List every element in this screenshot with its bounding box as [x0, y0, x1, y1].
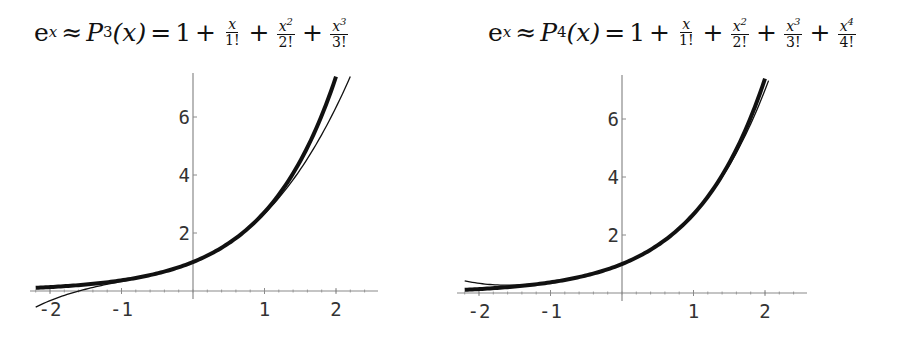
y-tick-label: 2: [608, 224, 619, 246]
x-tick-label: -1: [110, 298, 133, 320]
x-tick-label: -1: [539, 300, 562, 322]
x-tick-label: 1: [688, 300, 699, 322]
y-tick-label: 4: [179, 164, 190, 186]
x-tick-label: 1: [259, 298, 270, 320]
y-tick-label: 6: [179, 106, 190, 128]
y-tick-label: 2: [179, 222, 190, 244]
plots-canvas: -2-112246 -2-112246: [0, 0, 916, 340]
plot-p4: -2-112246: [457, 75, 807, 322]
x-tick-label: -2: [468, 300, 491, 322]
y-tick-label: 6: [608, 108, 619, 130]
x-tick-label: 2: [330, 298, 341, 320]
y-tick-label: 4: [608, 166, 619, 188]
x-tick-label: 2: [759, 300, 770, 322]
plot-p3: -2-112246: [30, 73, 378, 320]
